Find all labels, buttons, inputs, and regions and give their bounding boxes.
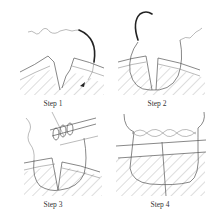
step-1-label: Step 1 [44,99,63,108]
panel-step-3: Step 3 [24,112,102,209]
suture-steps-diagram: Step 1 Step 2 Step 3 [0,0,216,224]
step-4-label: Step 4 [151,200,170,209]
step-2-label: Step 2 [148,99,167,108]
step-3-label: Step 3 [44,200,63,209]
panel-step-2: Step 2 [118,12,205,108]
panel-step-4: Step 4 [116,112,206,209]
panel-step-1: Step 1 [20,28,104,108]
